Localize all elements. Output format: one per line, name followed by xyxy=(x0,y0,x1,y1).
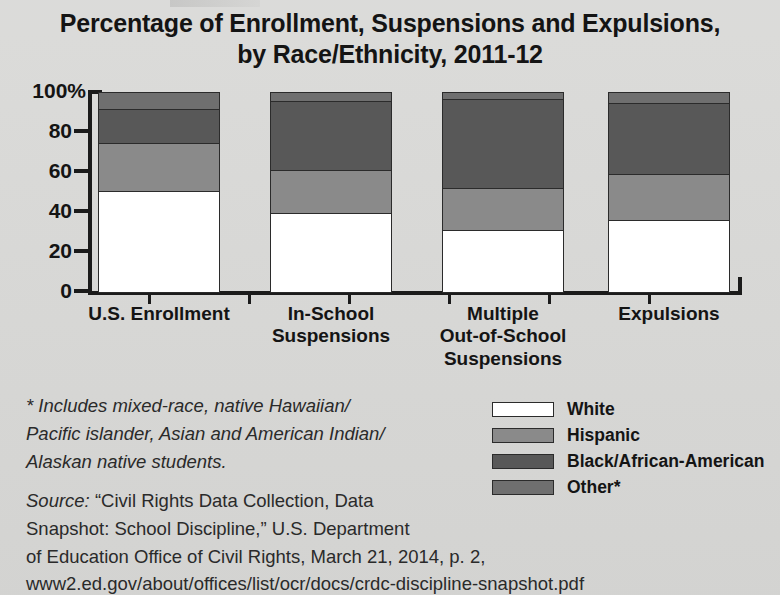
segment-hispanic xyxy=(271,170,391,212)
segment-hispanic xyxy=(443,188,563,230)
segment-black xyxy=(443,99,563,188)
y-tick-label-20: 20 xyxy=(2,240,72,261)
legend-swatch-other-icon xyxy=(492,480,554,495)
segment-hispanic xyxy=(609,174,729,220)
y-tick-label-0: 0 xyxy=(2,280,72,301)
category-label-expulsions: Expulsions xyxy=(569,303,769,325)
plot-area xyxy=(88,92,742,293)
legend-label: Other* xyxy=(567,477,620,498)
source-label: Source: xyxy=(26,490,90,511)
category-line: In-School xyxy=(231,303,431,325)
bar-expulsions[interactable] xyxy=(608,92,730,293)
footnote: * Includes mixed-race, native Hawaiian/ … xyxy=(26,392,456,476)
footnote-line-3: Alaskan native students. xyxy=(26,448,456,476)
segment-other xyxy=(271,93,391,101)
legend-label: Black/African-American xyxy=(567,451,764,472)
y-tick-label-80: 80 xyxy=(2,120,72,141)
bar-multiple-out-of-school-suspensions[interactable] xyxy=(442,92,564,293)
legend-item-hispanic[interactable]: Hispanic xyxy=(492,424,772,447)
segment-hispanic xyxy=(99,143,219,191)
y-tick-label-60: 60 xyxy=(2,160,72,181)
legend-swatch-hispanic-icon xyxy=(492,428,554,443)
chart-page: Percentage of Enrollment, Suspensions an… xyxy=(0,0,780,595)
segment-white xyxy=(271,213,391,292)
source-line-2: Snapshot: School Discipline,” U.S. Depar… xyxy=(26,515,746,543)
y-tick-label-100: 100% xyxy=(2,80,86,101)
legend-item-black-african-american[interactable]: Black/African-American xyxy=(492,450,772,473)
bar-in-school-suspensions[interactable] xyxy=(270,92,392,293)
source-text-1: “Civil Rights Data Collection, Data xyxy=(90,490,374,511)
legend-item-white[interactable]: White xyxy=(492,398,772,421)
source-line-3: of Education Office of Civil Rights, Mar… xyxy=(26,543,746,571)
category-line: Suspensions xyxy=(403,348,603,370)
legend-swatch-black-icon xyxy=(492,454,554,469)
category-label-us-enrollment: U.S. Enrollment xyxy=(59,303,259,325)
segment-black xyxy=(271,101,391,171)
bar-us-enrollment[interactable] xyxy=(98,92,220,293)
segment-black xyxy=(99,109,219,143)
chart-title: Percentage of Enrollment, Suspensions an… xyxy=(0,8,780,70)
category-label-in-school-suspensions: In-School Suspensions xyxy=(231,303,431,348)
chart-legend: White Hispanic Black/African-American Ot… xyxy=(492,398,772,502)
legend-item-other[interactable]: Other* xyxy=(492,476,772,499)
segment-other xyxy=(609,93,729,103)
segment-other xyxy=(99,93,219,109)
chart-title-line-1: Percentage of Enrollment, Suspensions an… xyxy=(60,9,720,37)
chart-title-line-2: by Race/Ethnicity, 2011-12 xyxy=(0,39,780,70)
y-tick-label-40: 40 xyxy=(2,200,72,221)
legend-label: White xyxy=(567,399,615,420)
footnote-line-1: * Includes mixed-race, native Hawaiian/ xyxy=(26,392,456,420)
category-line: Expulsions xyxy=(569,303,769,325)
footnote-line-2: Pacific islander, Asian and American Ind… xyxy=(26,420,456,448)
legend-swatch-white-icon xyxy=(492,402,554,417)
segment-white xyxy=(443,230,563,292)
category-line: U.S. Enrollment xyxy=(59,303,259,325)
segment-white xyxy=(99,191,219,292)
source-note: Source: “Civil Rights Data Collection, D… xyxy=(26,487,746,595)
segment-white xyxy=(609,220,729,292)
legend-label: Hispanic xyxy=(567,425,640,446)
segment-black xyxy=(609,103,729,175)
category-line: Suspensions xyxy=(231,325,431,347)
source-url: www2.ed.gov/about/offices/list/ocr/docs/… xyxy=(26,570,746,595)
scan-artifact xyxy=(170,0,260,7)
category-line: Out-of-School xyxy=(403,325,603,347)
